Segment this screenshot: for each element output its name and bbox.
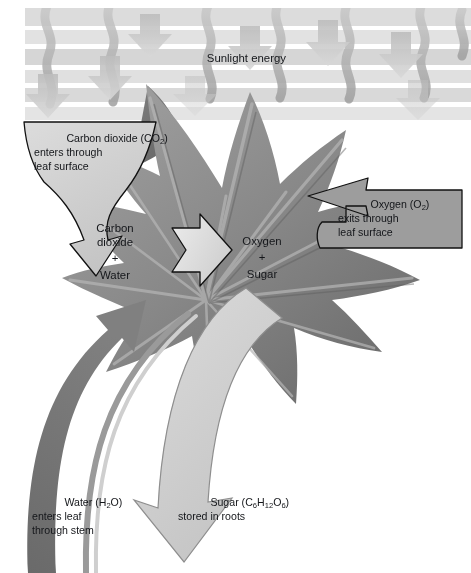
- carbon-dioxide-callout-line3: leaf surface: [34, 160, 89, 172]
- water-label-line2: enters leaf: [32, 510, 82, 522]
- equation-right-line2: Sugar: [247, 268, 278, 280]
- oxygen-callout-line3: leaf surface: [338, 226, 393, 238]
- water-label-line3: through stem: [32, 524, 94, 536]
- carbon-dioxide-callout-line2: enters through: [34, 146, 102, 158]
- oxygen-callout-line2: exits through: [338, 212, 399, 224]
- equation-left-plus: +: [112, 252, 119, 264]
- equation-left-line3: Water: [100, 269, 130, 281]
- photosynthesis-scene: Sunlight energy: [0, 0, 471, 573]
- equation-right-plus: +: [259, 251, 266, 263]
- equation-left-line1: Carbon: [96, 222, 133, 234]
- figure-canvas: Sunlight energy: [0, 0, 471, 573]
- sunlight-band: [25, 8, 471, 26]
- wavy-ray: [460, 10, 465, 56]
- sugar-label-line2: stored in roots: [178, 510, 245, 522]
- sunlight-label: Sunlight energy: [172, 52, 314, 64]
- diagram-svg: Sunlight energy: [0, 0, 471, 573]
- equation-left-line2: dioxide: [97, 236, 133, 248]
- equation-right-line1: Oxygen: [242, 235, 281, 247]
